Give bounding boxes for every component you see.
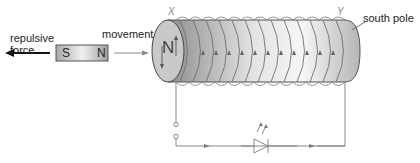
movement-arrow <box>114 51 149 56</box>
induction-diagram <box>0 0 420 163</box>
end-y-label: Y <box>337 6 344 18</box>
coil-face-n-label: N <box>162 42 174 54</box>
movement-label: movement <box>102 28 153 40</box>
south-pole-label: south pole <box>363 12 414 24</box>
repulsive-label-line2: force <box>10 44 54 56</box>
solenoid-coil <box>152 17 360 86</box>
repulsive-label-line1: repulsive <box>10 32 54 44</box>
end-x-label: X <box>168 6 175 18</box>
repulsive-force-label: repulsive force <box>10 32 54 56</box>
circuit <box>174 82 345 153</box>
magnet-n-label: N <box>97 47 106 59</box>
magnet-s-label: S <box>62 47 70 59</box>
